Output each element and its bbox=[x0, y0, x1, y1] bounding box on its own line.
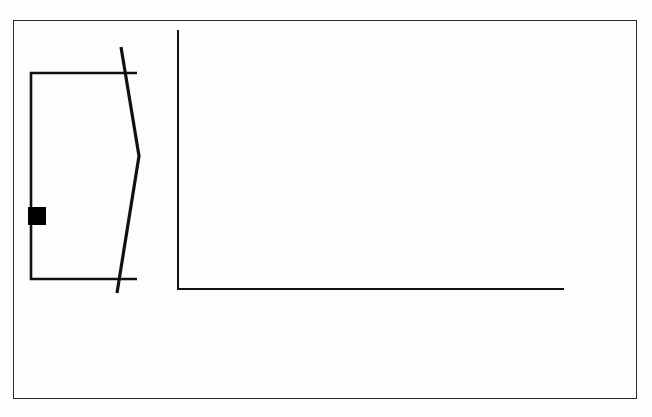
y-axis-tick-labels bbox=[135, 24, 175, 296]
x-axis-tickmarks bbox=[178, 289, 563, 303]
bar-series-group bbox=[178, 32, 563, 288]
black-square-swatch bbox=[28, 207, 46, 225]
legend-callout bbox=[25, 61, 140, 292]
plot-area bbox=[178, 32, 563, 288]
callout-outline-icon bbox=[25, 61, 140, 292]
x-axis-category-labels bbox=[178, 303, 563, 413]
chart-figure bbox=[0, 0, 652, 417]
